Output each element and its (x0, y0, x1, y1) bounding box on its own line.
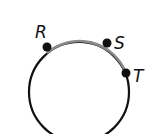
label-r: R (35, 22, 47, 42)
label-s: S (114, 33, 125, 53)
label-t: T (133, 66, 145, 86)
point-r (43, 43, 52, 52)
point-t (122, 69, 131, 78)
point-s (103, 39, 112, 48)
circle-diagram: R S T (0, 0, 155, 134)
